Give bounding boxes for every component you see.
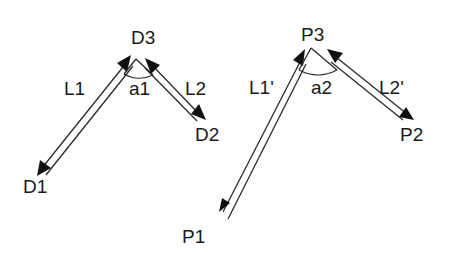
angle-arc-a2 bbox=[299, 70, 337, 75]
label-p1: P1 bbox=[182, 226, 205, 247]
label-p3: P3 bbox=[301, 24, 324, 45]
label-l1: L1 bbox=[64, 78, 85, 99]
diagram-canvas: D3 D1 D2 L1 L2 a1 P3 P1 P2 L1' L2' bbox=[0, 0, 449, 253]
left-figure: D3 D1 D2 L1 L2 a1 bbox=[23, 27, 219, 197]
label-a1: a1 bbox=[129, 78, 150, 99]
label-l2: L2 bbox=[185, 78, 206, 99]
label-a2: a2 bbox=[311, 77, 332, 98]
arrowhead-up-icon bbox=[117, 55, 131, 72]
label-p2: P2 bbox=[400, 124, 423, 145]
arrowhead-down-icon bbox=[37, 160, 51, 176]
segment-l1-arrow bbox=[37, 55, 133, 176]
label-l1prime: L1' bbox=[249, 77, 274, 98]
label-d1: D1 bbox=[23, 176, 47, 197]
segment-l1prime-arrow bbox=[219, 49, 306, 219]
label-l2prime: L2' bbox=[379, 77, 404, 98]
label-d3: D3 bbox=[131, 27, 155, 48]
label-d2: D2 bbox=[195, 124, 219, 145]
